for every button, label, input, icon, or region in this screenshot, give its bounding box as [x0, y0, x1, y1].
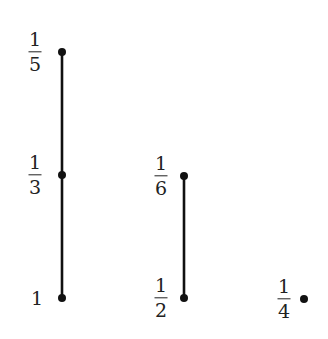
numerator: 1 [278, 276, 290, 296]
numerator: 1 [155, 153, 167, 173]
node-n4 [180, 172, 188, 180]
denominator: 4 [278, 302, 290, 322]
fraction-bar [155, 175, 168, 176]
node-label-fraction: 13 [29, 152, 42, 197]
denominator: 5 [29, 55, 41, 75]
denominator: 6 [155, 179, 167, 199]
fraction-bar [29, 174, 42, 175]
fraction-bar [278, 298, 291, 299]
node-n6 [300, 295, 308, 303]
node-label-fraction: 14 [278, 276, 291, 321]
fraction-bar [29, 51, 42, 52]
numerator: 1 [155, 275, 167, 295]
denominator: 3 [29, 178, 41, 198]
node-label-fraction: 16 [155, 153, 168, 198]
node-label: 1 [31, 287, 43, 309]
node-n1 [58, 48, 66, 56]
node-n5 [180, 294, 188, 302]
denominator: 2 [155, 301, 167, 321]
numerator: 1 [29, 152, 41, 172]
node-n3 [58, 294, 66, 302]
numerator: 1 [29, 29, 41, 49]
fraction-bar [155, 297, 168, 298]
node-n2 [58, 171, 66, 179]
node-label-fraction: 12 [155, 275, 168, 320]
node-label-fraction: 15 [29, 29, 42, 74]
